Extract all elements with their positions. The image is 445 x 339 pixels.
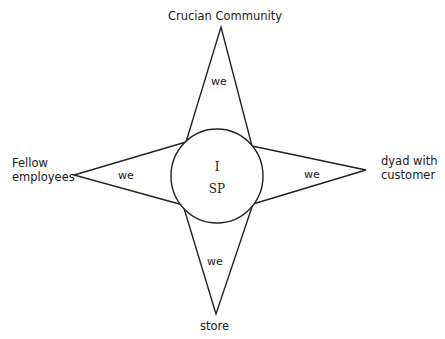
- we-label-top: we: [211, 75, 227, 89]
- we-label-left: we: [118, 169, 134, 183]
- center-label-i: I: [197, 160, 237, 174]
- center-label-sp: SP: [197, 182, 237, 196]
- label-dyad-with: dyad with: [381, 154, 438, 168]
- center-circle: [171, 129, 263, 223]
- label-customer: customer: [381, 168, 435, 182]
- label-crucian-community: Crucian Community: [130, 9, 320, 23]
- label-employees: employees: [12, 170, 75, 184]
- we-label-bottom: we: [207, 255, 223, 269]
- diagram-canvas: Crucian Community we Fellow employees we…: [0, 0, 445, 339]
- label-store: store: [200, 319, 229, 333]
- label-fellow: Fellow: [12, 156, 48, 170]
- we-label-right: we: [304, 168, 320, 182]
